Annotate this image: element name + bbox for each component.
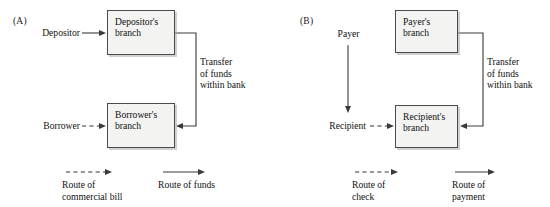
edge-recipient-to-recipients-branch (370, 123, 394, 129)
annotation-transfer-of-funds-b: Transfer of funds within bank (487, 56, 550, 91)
node-payers-branch: Payer's branch (395, 10, 458, 53)
connector-layer (0, 0, 550, 207)
node-borrowers-branch: Borrower's branch (107, 103, 175, 148)
legend-dashed-arrow-b (355, 169, 398, 175)
legend-label-route-of-payment: Route of payment (452, 179, 542, 202)
node-recipient: Recipient (296, 120, 366, 132)
edge-depositor-to-depositors-branch (82, 30, 106, 36)
node-recipients-branch: Recipient's branch (395, 105, 458, 148)
node-depositor: Depositor (8, 27, 80, 39)
legend-dashed-arrow-a (66, 169, 112, 175)
node-depositors-branch: Depositor's branch (107, 10, 175, 55)
diagram-canvas: (A) Depositor Depositor's branch Borrowe… (0, 0, 550, 207)
edge-depositors-branch-to-borrowers-branch (175, 33, 196, 129)
legend-solid-arrow-b (455, 169, 495, 175)
edge-payers-branch-to-recipients-branch (458, 33, 483, 129)
legend-label-route-of-check: Route of check (352, 179, 442, 202)
edge-borrower-to-borrowers-branch (82, 123, 106, 129)
node-payer: Payer (320, 28, 377, 40)
edge-payer-to-recipient (345, 45, 351, 113)
legend-label-route-of-funds: Route of funds (139, 179, 234, 191)
annotation-transfer-of-funds-a: Transfer of funds within bank (200, 56, 270, 91)
panel-label-a: (A) (13, 16, 27, 26)
panel-label-b: (B) (300, 16, 313, 26)
node-borrower: Borrower (8, 120, 80, 132)
legend-solid-arrow-a (163, 169, 205, 175)
